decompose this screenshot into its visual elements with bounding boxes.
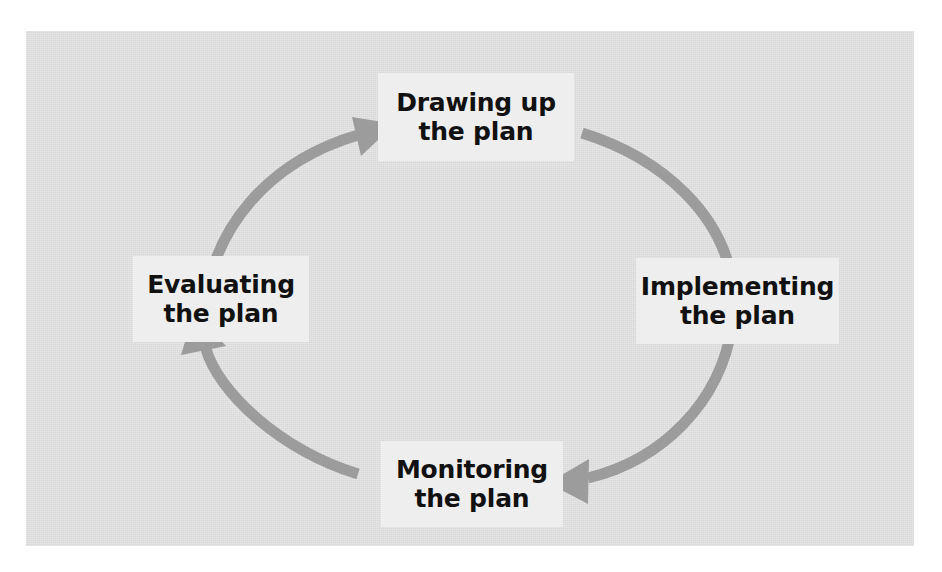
figure-caption	[30, 561, 450, 572]
node-monitoring[interactable]: Monitoring the plan	[381, 441, 563, 527]
node-evaluating-line1: Evaluating	[147, 270, 295, 300]
node-monitoring-line1: Monitoring	[396, 455, 548, 485]
node-monitoring-line2: the plan	[415, 484, 530, 514]
node-drawing-up-line1: Drawing up	[396, 88, 556, 118]
node-implementing[interactable]: Implementing the plan	[636, 258, 839, 344]
node-implementing-line2: the plan	[680, 301, 795, 331]
arrow-implementing-to-monitoring	[548, 326, 732, 504]
node-evaluating[interactable]: Evaluating the plan	[133, 256, 309, 342]
node-implementing-line1: Implementing	[641, 272, 834, 302]
node-drawing-up-line2: the plan	[419, 117, 534, 147]
diagram-canvas: Drawing up the plan Implementing the pla…	[0, 0, 942, 572]
node-drawing-up[interactable]: Drawing up the plan	[378, 73, 574, 161]
diagram-panel: Drawing up the plan Implementing the pla…	[26, 31, 914, 546]
node-evaluating-line2: the plan	[164, 299, 279, 329]
